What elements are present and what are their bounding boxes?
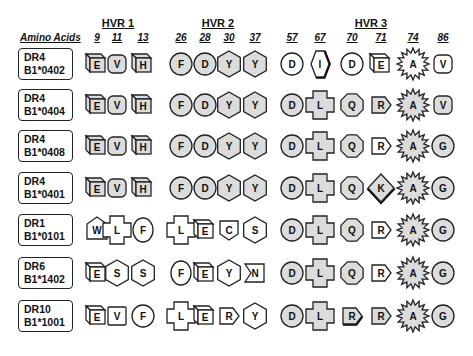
residue-hexagon-bold-icon: I (311, 51, 329, 77)
residue-circle-icon: G (432, 262, 454, 284)
residue-circle-icon: D (194, 53, 216, 75)
residue-letter: I (319, 59, 322, 70)
residue-letter: R (377, 141, 385, 152)
residue-diamond-bold-icon: K (368, 174, 394, 202)
residue-letter: S (114, 268, 121, 279)
residue-octagon-icon: Q (341, 262, 363, 284)
residue-rounded-icon: V (108, 179, 126, 197)
residue-letter: D (201, 100, 208, 111)
residue-hexagon-icon: Y (218, 92, 241, 118)
residue-cube-icon: H (132, 136, 151, 154)
residue-letter: L (317, 141, 323, 152)
residue-letter: A (409, 268, 416, 279)
residue-letter: A (409, 100, 416, 111)
residue-starburst-icon: A (397, 89, 429, 121)
residue-row: EVHFDYYDIDEAV (0, 42, 473, 86)
residue-letter: V (440, 100, 447, 111)
residue-cube-icon: E (86, 263, 105, 281)
residue-pentagon-arrow-icon: R (372, 308, 391, 324)
residue-letter: Y (226, 100, 233, 111)
residue-circle-icon: D (281, 262, 303, 284)
residue-pentagon-arrow-icon: R (372, 138, 391, 154)
residue-letter: Y (226, 141, 233, 152)
residue-letter: E (202, 226, 209, 237)
residue-cross-icon: L (306, 259, 334, 287)
residue-cube-icon: E (86, 178, 105, 196)
residue-letter: L (178, 225, 184, 236)
residue-cross-icon: L (306, 216, 334, 244)
residue-circle-icon: F (170, 94, 192, 116)
residue-letter: L (317, 225, 323, 236)
residue-hexagon-icon: S (244, 217, 267, 243)
residue-square-icon: V (108, 307, 126, 325)
residue-rounded-icon: V (108, 55, 126, 73)
residue-letter: R (225, 311, 233, 322)
residue-starburst-icon: A (397, 300, 429, 332)
residue-oval-icon: F (133, 218, 153, 242)
residue-pentagon-down-icon: C (220, 221, 238, 240)
residue-letter: E (94, 101, 101, 112)
residue-letter: V (114, 59, 121, 70)
residue-oval-icon: F (171, 261, 191, 285)
residue-letter: Q (348, 268, 356, 279)
residue-letter: A (409, 311, 416, 322)
residue-starburst-icon: A (397, 130, 429, 162)
residue-letter: E (202, 312, 209, 323)
residue-hexagon-icon: S (106, 260, 129, 286)
residue-letter: R (377, 100, 385, 111)
residue-letter: D (288, 311, 295, 322)
residue-circle-icon: G (432, 135, 454, 157)
residue-letter: L (317, 311, 323, 322)
residue-letter: N (251, 268, 258, 279)
residue-letter: C (225, 225, 232, 236)
residue-letter: D (201, 59, 208, 70)
residue-rounded-icon: V (434, 96, 452, 114)
residue-letter: G (439, 141, 447, 152)
residue-cross-icon: L (306, 132, 334, 160)
residue-letter: Q (348, 225, 356, 236)
residue-letter: Y (252, 59, 259, 70)
residue-cube-icon: E (194, 220, 213, 238)
residue-hexagon-icon: Y (218, 175, 241, 201)
residue-letter: E (94, 269, 101, 280)
residue-letter: D (201, 141, 208, 152)
residue-row: EVHFDYYDLQKAG (0, 166, 473, 210)
residue-letter: L (178, 311, 184, 322)
residue-cube-icon: E (194, 306, 213, 324)
residue-letter: F (178, 100, 184, 111)
residue-octagon-icon: Q (341, 94, 363, 116)
residue-starburst-icon: A (397, 214, 429, 246)
residue-letter: V (114, 183, 121, 194)
residue-cube-icon: E (86, 54, 105, 72)
residue-circle-icon: D (281, 305, 303, 327)
residue-letter: G (439, 311, 447, 322)
residue-letter: E (94, 312, 101, 323)
residue-letter: D (288, 225, 295, 236)
residue-row: ESSFEYNDLQRAG (0, 251, 473, 295)
residue-circle-icon: G (432, 305, 454, 327)
residue-letter: S (252, 225, 259, 236)
residue-octagon-icon: Q (341, 177, 363, 199)
residue-circle-icon: D (281, 219, 303, 241)
residue-circle-icon: G (432, 177, 454, 199)
residue-letter: E (94, 60, 101, 71)
residue-letter: R (348, 311, 356, 322)
region-header: HVR 2 (193, 17, 243, 29)
residue-notch-left-icon: N (245, 264, 264, 282)
residue-letter: R (377, 268, 385, 279)
residue-letter: D (348, 59, 355, 70)
residue-letter: H (139, 101, 146, 112)
residue-letter: D (288, 268, 295, 279)
residue-row: WLFLECSDLQRAG (0, 208, 473, 252)
residue-letter: F (178, 268, 184, 279)
residue-circle-icon: F (132, 305, 154, 327)
residue-cube-icon: E (86, 306, 105, 324)
residue-hexagon-icon: Y (244, 303, 267, 329)
residue-hexagon-icon: Y (244, 92, 267, 118)
residue-circle-icon: D (281, 135, 303, 157)
residue-letter: F (140, 225, 146, 236)
residue-circle-icon: D (281, 53, 303, 75)
residue-letter: Y (226, 59, 233, 70)
residue-letter: A (409, 141, 416, 152)
residue-letter: D (288, 183, 295, 194)
